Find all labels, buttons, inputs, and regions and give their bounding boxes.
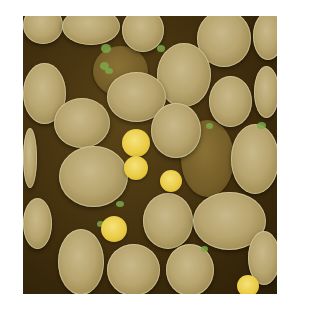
yeast-cell xyxy=(151,103,201,158)
bud-scar xyxy=(201,246,208,252)
bud-scar xyxy=(105,68,113,74)
yeast-cell xyxy=(209,76,252,127)
yeast-cell xyxy=(54,98,110,148)
yeast-cell xyxy=(254,66,277,118)
yeast-cell xyxy=(231,124,277,194)
yeast-cell xyxy=(253,16,277,60)
yeast-cell xyxy=(23,128,37,188)
bud-scar xyxy=(206,123,213,129)
yeast-micrograph xyxy=(23,16,277,294)
bud-scar xyxy=(257,122,266,129)
yeast-bud xyxy=(122,129,150,157)
yeast-cell xyxy=(62,16,120,45)
yeast-bud xyxy=(124,156,148,180)
yeast-cell xyxy=(58,229,104,294)
yeast-cell xyxy=(107,244,160,294)
bud-scar xyxy=(116,201,124,207)
yeast-bud xyxy=(101,216,127,242)
yeast-cell xyxy=(143,193,193,249)
yeast-bud xyxy=(237,275,259,294)
yeast-cell xyxy=(23,198,52,249)
bud-scar xyxy=(101,44,111,53)
yeast-cell xyxy=(166,244,214,294)
yeast-bud xyxy=(160,170,182,192)
bud-scar xyxy=(157,45,165,52)
yeast-cell xyxy=(23,16,63,44)
yeast-cell xyxy=(59,146,128,207)
